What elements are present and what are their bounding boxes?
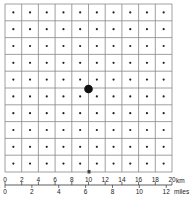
km-tick-label: 16 [135,176,143,183]
miles-tick-label: 12 [163,188,171,195]
cell-dot [79,79,81,81]
cell-dot [12,45,14,47]
cell-dot [163,79,165,81]
cell-dot [163,112,165,114]
cell-dot [79,62,81,64]
cell-dot [62,62,64,64]
cell-dot [163,62,165,64]
cell-dot [146,28,148,30]
km-tick-label: 2 [20,176,24,183]
cell-dot [29,95,31,97]
cell-dot [79,112,81,114]
km-tick-label: 10 [85,176,93,183]
cell-dot [129,95,131,97]
cell-dot [62,163,64,165]
cell-dot [79,45,81,47]
cell-dot [146,163,148,165]
cell-dot [29,45,31,47]
central-dot [84,85,93,94]
cell-dot [163,11,165,13]
cell-dot [129,79,131,81]
cell-dot [129,11,131,13]
cell-dot [46,28,48,30]
cell-dot [96,129,98,131]
cell-dot [12,146,14,148]
cell-dot [46,45,48,47]
cell-dot [46,112,48,114]
km-tick-label: 18 [152,176,160,183]
cell-dot [29,62,31,64]
cell-dot [29,112,31,114]
cell-dot [129,163,131,165]
cell-dot [129,112,131,114]
miles-tick-label: 6 [84,188,88,195]
cell-dot [46,11,48,13]
cell-dot [62,129,64,131]
grid-diagram: 02468101214161820 km 024681012 miles [0,0,190,199]
cell-dot [96,45,98,47]
cell-dot [62,112,64,114]
cell-dot [79,28,81,30]
cell-dot [96,79,98,81]
km-tick-label: 14 [118,176,126,183]
cell-dot [12,129,14,131]
cell-dot [79,11,81,13]
miles-tick-label: 2 [30,188,34,195]
cell-dot [146,112,148,114]
cell-dot [146,146,148,148]
cell-dot [112,28,114,30]
cell-dot [12,163,14,165]
cell-dot [112,11,114,13]
cell-dot [163,129,165,131]
km-tick-label: 6 [53,176,57,183]
miles-tick-labels: 024681012 [3,188,170,195]
cell-dot [112,95,114,97]
cell-dot [96,11,98,13]
cell-dot [112,146,114,148]
cell-dot [112,112,114,114]
cell-dot [29,79,31,81]
cell-dot [12,62,14,64]
miles-tick-label: 8 [111,188,115,195]
km-unit-label: km [176,177,185,184]
cell-dot [29,11,31,13]
cell-dot [12,28,14,30]
km-tick-label: 12 [102,176,110,183]
cell-dot [96,95,98,97]
cell-dot [146,45,148,47]
cell-dot [79,95,81,97]
cell-dot [96,163,98,165]
cell-dot [79,163,81,165]
cell-dot [46,163,48,165]
cell-dot [12,11,14,13]
cell-dot [163,163,165,165]
cell-dot [146,129,148,131]
cell-dot [112,45,114,47]
cell-dot [163,95,165,97]
cell-dot [96,28,98,30]
cell-dot [146,95,148,97]
cell-dot [29,146,31,148]
cell-dot [62,95,64,97]
km-tick-label: 20 [168,176,176,183]
cell-dot [129,45,131,47]
miles-unit-label: miles [174,188,190,195]
cell-dot [163,45,165,47]
km-tick-label: 8 [70,176,74,183]
cell-dot [79,146,81,148]
cell-dot [46,79,48,81]
cell-dot [112,129,114,131]
miles-tick-label: 4 [57,188,61,195]
miles-tick-label: 10 [136,188,144,195]
cell-dot [112,163,114,165]
cell-dot [12,112,14,114]
cell-dot [46,146,48,148]
cell-dot [96,112,98,114]
cell-dot [46,95,48,97]
cell-dot [129,28,131,30]
cell-dot [29,129,31,131]
cell-dot [129,62,131,64]
cell-dot [146,11,148,13]
cell-dot [62,79,64,81]
cell-dot [96,62,98,64]
